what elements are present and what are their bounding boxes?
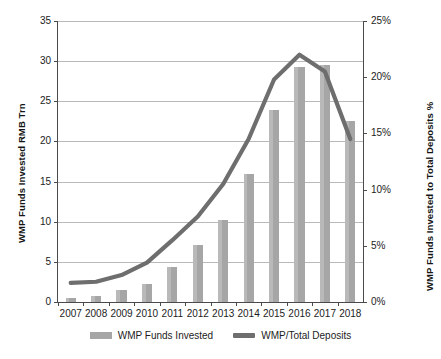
line-series-svg — [58, 21, 363, 302]
x-tick-mark — [134, 303, 135, 306]
left-tick-mark — [54, 262, 58, 263]
legend-line-swatch-icon — [233, 333, 255, 338]
left-tick-mark — [54, 182, 58, 183]
x-tick-mark — [211, 303, 212, 306]
right-tick-label: 5% — [371, 240, 401, 251]
y-axis-right-line — [363, 21, 364, 303]
plot-area — [58, 21, 363, 302]
x-tick-mark — [58, 303, 59, 306]
x-tick-mark — [236, 303, 237, 306]
right-tick-label: 20% — [371, 71, 401, 82]
left-tick-label: 20 — [25, 135, 51, 146]
x-tick-mark — [338, 303, 339, 306]
left-tick-mark — [54, 222, 58, 223]
x-tick-mark — [160, 303, 161, 306]
x-tick-label-2018: 2018 — [332, 308, 368, 319]
x-tick-mark — [261, 303, 262, 306]
x-tick-mark — [312, 303, 313, 306]
left-tick-label: 10 — [25, 216, 51, 227]
legend-item[interactable]: WMP Funds Invested — [90, 330, 213, 341]
legend-item[interactable]: WMP/Total Deposits — [233, 330, 351, 341]
right-tick-mark — [363, 302, 367, 303]
left-tick-label: 0 — [25, 296, 51, 307]
right-tick-mark — [363, 246, 367, 247]
legend-bar-swatch-icon — [90, 332, 112, 339]
right-tick-mark — [363, 77, 367, 78]
left-tick-label: 5 — [25, 256, 51, 267]
legend-label: WMP Funds Invested — [118, 330, 213, 341]
x-tick-mark — [287, 303, 288, 306]
right-tick-mark — [363, 133, 367, 134]
left-tick-mark — [54, 141, 58, 142]
left-tick-label: 35 — [25, 15, 51, 26]
chart-legend: WMP Funds InvestedWMP/Total Deposits — [0, 330, 441, 341]
x-tick-mark — [83, 303, 84, 306]
right-tick-label: 10% — [371, 184, 401, 195]
left-tick-mark — [54, 101, 58, 102]
legend-label: WMP/Total Deposits — [261, 330, 351, 341]
right-tick-mark — [363, 190, 367, 191]
y-axis-left-line — [57, 21, 58, 303]
wmp-total-deposits-line — [71, 55, 351, 283]
x-tick-mark — [185, 303, 186, 306]
chart-container: WMP Funds Invested RMB Trn WMP Funds Inv… — [0, 0, 441, 359]
right-axis-title: WMP Funds Invested to Total Deposits % — [424, 102, 435, 291]
left-tick-mark — [54, 21, 58, 22]
left-tick-label: 15 — [25, 176, 51, 187]
left-tick-label: 25 — [25, 95, 51, 106]
right-tick-label: 0% — [371, 296, 401, 307]
right-tick-mark — [363, 21, 367, 22]
left-tick-mark — [54, 61, 58, 62]
right-tick-label: 15% — [371, 127, 401, 138]
x-tick-mark — [109, 303, 110, 306]
right-tick-label: 25% — [371, 15, 401, 26]
left-tick-label: 30 — [25, 55, 51, 66]
